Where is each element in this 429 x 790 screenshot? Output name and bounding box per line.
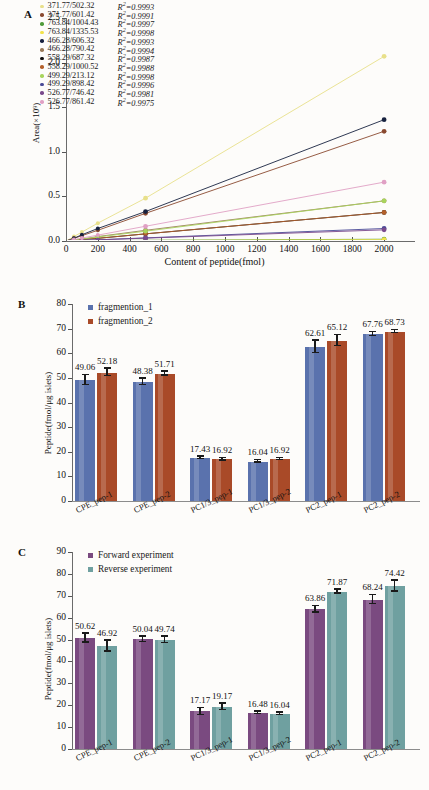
panel-a: A Area(×10⁹) 0.00.51.01.52.02.5 02004006… xyxy=(0,0,429,300)
bar[interactable] xyxy=(75,380,95,501)
panel-c-y-tick-label: 50 xyxy=(30,634,66,644)
legend-marker-icon xyxy=(40,100,44,104)
error-bar-cap xyxy=(334,588,341,589)
bar[interactable] xyxy=(97,373,117,501)
panel-c-legend-item[interactable]: Reverse experiment xyxy=(88,564,174,574)
error-bar-cap xyxy=(82,641,89,642)
error-bar-cap xyxy=(369,331,376,332)
bar[interactable] xyxy=(133,639,153,749)
error-bar-cap xyxy=(391,579,398,580)
bar-highlight xyxy=(101,646,106,749)
bar-highlight xyxy=(136,382,141,501)
legend-marker-icon xyxy=(40,22,44,26)
bar[interactable] xyxy=(97,646,117,749)
panel-c-y-tick-label: 70 xyxy=(30,590,66,600)
bar-value-label: 19.17 xyxy=(205,691,239,701)
bar[interactable] xyxy=(385,586,405,749)
panel-b-y-tick-label: 60 xyxy=(30,347,66,357)
panel-b-y-tick-label: 80 xyxy=(30,298,66,308)
bar[interactable] xyxy=(133,382,153,501)
bar[interactable] xyxy=(363,600,383,749)
panel-a-data-point xyxy=(143,229,148,234)
bar-highlight xyxy=(136,639,141,749)
bar[interactable] xyxy=(248,462,268,501)
error-bar-cap xyxy=(219,709,226,710)
bar[interactable] xyxy=(363,334,383,501)
panel-b-legend-item[interactable]: fragmention_2 xyxy=(88,316,153,326)
error-bar-cap xyxy=(219,702,226,703)
error-bar-cap xyxy=(391,590,398,591)
bar-highlight xyxy=(101,373,106,501)
bar-value-label: 16.92 xyxy=(263,445,297,455)
panel-a-data-point xyxy=(143,196,148,201)
legend-swatch-icon xyxy=(88,567,93,572)
bar-value-label: 65.12 xyxy=(320,322,354,332)
error-bar-cap xyxy=(139,641,146,642)
bar[interactable] xyxy=(327,592,347,749)
bar-highlight xyxy=(366,334,371,501)
panel-c-y-tick-label: 30 xyxy=(30,677,66,687)
bar-highlight xyxy=(158,640,163,749)
panel-a-data-point xyxy=(96,221,100,225)
panel-a-legend-item[interactable]: 526.77/861.42R2=0.9975 xyxy=(40,98,154,107)
bar[interactable] xyxy=(75,638,95,749)
bar-highlight xyxy=(194,711,199,749)
bar[interactable] xyxy=(305,347,325,501)
panel-a-data-point xyxy=(382,117,387,122)
bar-value-label: 49.74 xyxy=(148,624,182,634)
bar[interactable] xyxy=(248,713,268,749)
bar[interactable] xyxy=(327,341,347,501)
error-bar-cap xyxy=(369,594,376,595)
bar[interactable] xyxy=(190,711,210,749)
bar-value-label: 68.73 xyxy=(378,317,412,327)
bar[interactable] xyxy=(155,374,175,501)
panel-b-y-tick-label: 40 xyxy=(30,397,66,407)
panel-c-legend: Forward experimentReverse experiment xyxy=(88,550,174,578)
error-bar-cap xyxy=(312,352,319,353)
bar-highlight xyxy=(79,638,84,749)
panel-a-data-point xyxy=(80,236,84,240)
legend-swatch-icon xyxy=(88,319,93,324)
legend-marker-icon xyxy=(40,74,44,78)
bar-highlight xyxy=(331,592,336,749)
legend-marker-icon xyxy=(40,5,44,9)
bar[interactable] xyxy=(155,640,175,749)
error-bar-cap xyxy=(334,334,341,335)
error-bar-cap xyxy=(104,375,111,376)
bar-highlight xyxy=(251,713,256,749)
bar-value-label: 74.42 xyxy=(378,568,412,578)
panel-c-y-tick-label: 90 xyxy=(30,546,66,556)
bar[interactable] xyxy=(305,609,325,749)
error-bar-cap xyxy=(254,461,261,462)
error-bar-cap xyxy=(139,635,146,636)
panel-c-plot-area: 50.6246.9250.0449.7417.1719.1716.4816.04… xyxy=(73,552,418,749)
panel-a-legend-r-squared: R2=0.9975 xyxy=(118,96,155,108)
error-bar-cap xyxy=(82,384,89,385)
legend-swatch-icon xyxy=(88,305,93,310)
bar-value-label: 16.04 xyxy=(263,700,297,710)
legend-marker-icon xyxy=(40,48,44,52)
bar-highlight xyxy=(388,586,393,749)
error-bar-cap xyxy=(369,335,376,336)
panel-b-y-tick-label: 50 xyxy=(30,372,66,382)
panel-c-y-tick-label: 40 xyxy=(30,655,66,665)
panel-a-data-point xyxy=(382,210,387,215)
bar[interactable] xyxy=(190,458,210,501)
panel-c-y-tick-label: 10 xyxy=(30,721,66,731)
bar-highlight xyxy=(158,374,163,501)
panel-b-plot-area: 49.0652.1848.3851.7117.4316.9216.0416.92… xyxy=(73,304,418,501)
panel-c-legend-item[interactable]: Forward experiment xyxy=(88,550,174,560)
panel-a-data-point xyxy=(96,227,100,231)
legend-marker-icon xyxy=(40,65,44,69)
error-bar-cap xyxy=(369,603,376,604)
bar-value-label: 51.71 xyxy=(148,359,182,369)
bar[interactable] xyxy=(385,332,405,501)
bar-highlight xyxy=(309,609,314,749)
panel-c-letter: C xyxy=(18,546,26,558)
error-bar-cap xyxy=(391,332,398,333)
error-bar-cap xyxy=(391,329,398,330)
bar-highlight xyxy=(194,458,199,501)
panel-b-y-tick-label: 0 xyxy=(30,495,66,505)
panel-b-legend-item[interactable]: fragmention_1 xyxy=(88,302,153,312)
panel-b: B Peptide(fmol/μg islets) 01020304050607… xyxy=(0,296,429,544)
